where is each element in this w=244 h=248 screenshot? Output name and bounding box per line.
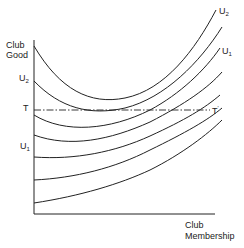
left-label-u1: U1 (20, 141, 30, 154)
x-axis-label: Club Membership (185, 220, 235, 242)
diagram-canvas (0, 0, 244, 248)
left-label-u2: U2 (19, 73, 29, 86)
y-axis-label-line-1: Club (6, 40, 28, 50)
x-axis-label-line-2: Membership (185, 231, 235, 242)
indifference-curve-2 (34, 27, 222, 111)
x-axis-label-line-1: Club (185, 220, 235, 231)
indifference-curve-3 (34, 48, 220, 127)
indifference-curve-1 (34, 10, 216, 100)
indifference-curves (34, 10, 222, 203)
club-goods-diagram: Club Good U2 T U1 U2 U1 T' Club Membersh… (0, 0, 244, 248)
y-axis-label: Club Good (6, 40, 28, 60)
indifference-curve-7 (34, 120, 222, 203)
y-axis-label-line-2: Good (6, 50, 28, 60)
left-label-t: T (23, 103, 29, 113)
right-label-t-prime: T' (212, 103, 219, 116)
right-label-u1: U1 (222, 46, 232, 59)
right-label-u2: U2 (219, 6, 229, 19)
indifference-curve-5 (34, 95, 220, 158)
